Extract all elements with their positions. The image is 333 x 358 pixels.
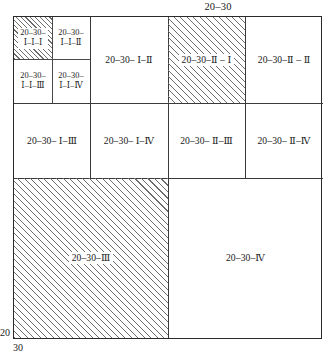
cell-20-30-III[interactable]: 20–30–Ⅲ (14, 178, 168, 338)
axis-bottom-label: 30 (13, 342, 23, 353)
cell-20-30-I-II[interactable]: 20–30– Ⅰ–Ⅱ (90, 17, 168, 103)
cell-label: 20–30– Ⅱ–Ⅲ (180, 135, 233, 147)
cell-label: 20–30–Ⅲ (69, 252, 113, 265)
cell-label: 20–30– Ⅰ–Ⅳ (104, 135, 154, 147)
cell-label-line1: 20–30– (20, 28, 46, 37)
cell-label: 20–30– Ⅰ–Ⅰ–Ⅱ (58, 28, 84, 48)
grid-rule-vertical-micro (52, 17, 53, 103)
cell-label: 20–30– Ⅰ–Ⅲ (27, 135, 77, 147)
cell-label: 20–30– Ⅰ–Ⅰ–Ⅳ (58, 71, 84, 91)
cell-20-30-II-IV[interactable]: 20–30– Ⅱ–Ⅳ (245, 103, 323, 178)
cell-label-line2: Ⅰ–Ⅰ–Ⅱ (61, 38, 82, 47)
cell-label: 20–30– Ⅰ–Ⅱ (105, 54, 152, 66)
cell-label-line1: 20–30– (20, 71, 46, 80)
cell-20-30-I-I-III[interactable]: 20–30– Ⅰ–Ⅰ–Ⅲ (14, 59, 52, 103)
grid-rule-horizontal-micro (14, 59, 90, 60)
cell-20-30-I-IV[interactable]: 20–30– Ⅰ–Ⅳ (90, 103, 168, 178)
cell-label-line1: 20–30– (58, 28, 84, 37)
cell-20-30-II-III[interactable]: 20–30– Ⅱ–Ⅲ (168, 103, 245, 178)
grid-rule-horizontal-row1 (14, 103, 323, 104)
axis-left-label: 20 (0, 327, 10, 338)
cell-20-30-IV[interactable]: 20–30–Ⅳ (168, 178, 323, 338)
grid-rule-vertical-col1 (90, 17, 91, 178)
cell-label-line2: Ⅰ–Ⅰ–Ⅲ (21, 81, 44, 90)
diagram-frame: 20–30– Ⅰ–Ⅰ–Ⅰ 20–30– Ⅰ–Ⅰ–Ⅱ 20–30– Ⅰ–Ⅰ–Ⅲ 2… (13, 16, 322, 339)
cell-label: 20–30–Ⅱ – Ⅰ (179, 54, 234, 67)
cell-20-30-I-I-I[interactable]: 20–30– Ⅰ–Ⅰ–Ⅰ (14, 17, 52, 59)
cell-label-line1: 20–30– (58, 71, 84, 80)
map-sheet-subdivision-diagram: 20–30 20 30 20–30– Ⅰ–Ⅰ–Ⅰ 20–30– Ⅰ–Ⅰ–Ⅱ 20… (0, 0, 333, 358)
cell-label: 20–30–Ⅱ – Ⅱ (258, 54, 311, 66)
cell-label: 20–30–Ⅳ (226, 252, 265, 264)
cell-20-30-I-I-IV[interactable]: 20–30– Ⅰ–Ⅰ–Ⅳ (52, 59, 90, 103)
cell-label-line2: Ⅰ–Ⅰ–Ⅰ (24, 38, 43, 47)
cell-20-30-II-II[interactable]: 20–30–Ⅱ – Ⅱ (245, 17, 323, 103)
cell-20-30-I-III[interactable]: 20–30– Ⅰ–Ⅲ (14, 103, 90, 178)
cell-label: 20–30– Ⅱ–Ⅳ (257, 135, 310, 147)
cell-20-30-II-I[interactable]: 20–30–Ⅱ – Ⅰ (168, 17, 245, 103)
cell-label-line2: Ⅰ–Ⅰ–Ⅳ (59, 81, 83, 90)
top-caption-label: 20–30 (168, 1, 268, 13)
cell-20-30-I-I-II[interactable]: 20–30– Ⅰ–Ⅰ–Ⅱ (52, 17, 90, 59)
cell-label: 20–30– Ⅰ–Ⅰ–Ⅰ (18, 28, 49, 49)
cell-label: 20–30– Ⅰ–Ⅰ–Ⅲ (20, 71, 46, 91)
grid-rule-vertical-col3 (245, 17, 246, 178)
